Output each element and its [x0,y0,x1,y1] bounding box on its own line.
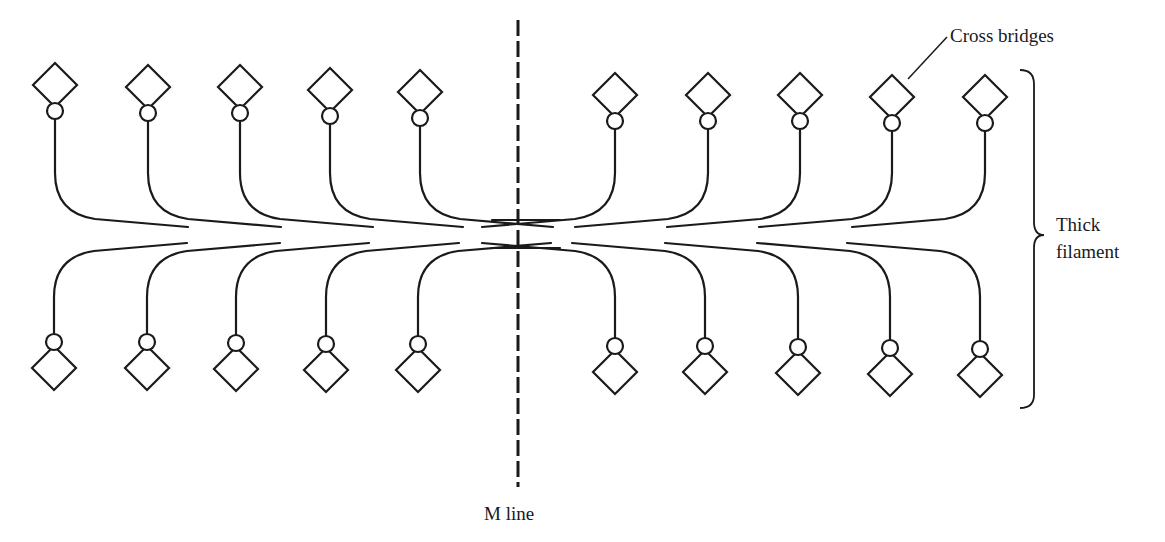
cross-bridges-label: Cross bridges [950,24,1054,48]
myosin-tail [55,119,188,227]
hinge-circle-icon [972,341,988,357]
myosin-tail [418,243,551,336]
hinge-circle-icon [697,338,713,354]
cross-bridge-head-icon [870,75,914,119]
cross-bridge-head-icon [776,351,820,395]
hinge-circle-icon [607,338,623,354]
cross-bridge-head-icon [304,348,348,392]
cross-bridge-head-icon [32,346,76,390]
myosin-tail [420,126,553,227]
myosin-molecule [482,243,637,394]
myosin-molecule [482,73,637,227]
cross-bridge-head-icon [683,350,727,394]
hinge-circle-icon [47,103,63,119]
hinge-circle-icon [607,113,623,129]
thick-filament-label-line2: filament [1056,240,1119,264]
thick-filament-label-line1: Thick [1056,213,1100,237]
cross-bridge-head-icon [33,63,77,107]
hinge-circle-icon [232,105,248,121]
hinge-circle-icon [46,334,62,350]
hinge-circle-icon [139,334,155,350]
m-line-label: M line [484,502,534,526]
cross-bridge-head-icon [126,65,170,109]
hinge-circle-icon [700,113,716,129]
hinge-circle-icon [228,335,244,351]
cross-bridge-head-icon [593,73,637,117]
hinge-circle-icon [412,110,428,126]
cross-bridges-leader-line [908,37,947,79]
hinge-circle-icon [410,336,426,352]
hinge-circle-icon [977,115,993,131]
cross-bridge-head-icon [308,68,352,112]
cross-bridge-head-icon [593,350,637,394]
myosin-tail [240,121,373,227]
cross-bridge-head-icon [958,353,1002,397]
cross-bridge-head-icon [778,73,822,117]
thick-filament-brace [1020,70,1044,408]
hinge-circle-icon [882,340,898,356]
thick-filament-diagram [0,0,1165,542]
myosin-tail [147,243,280,334]
myosin-molecule [398,70,553,227]
cross-bridge-head-icon [398,70,442,114]
hinge-circle-icon [140,105,156,121]
cross-bridge-head-icon [218,65,262,109]
myosin-tail [847,243,980,341]
myosin-tail [482,129,615,227]
cross-bridge-head-icon [396,348,440,392]
hinge-circle-icon [790,339,806,355]
cross-bridge-head-icon [963,75,1007,119]
hinge-circle-icon [322,108,338,124]
curly-brace-icon [1020,70,1044,408]
hinge-circle-icon [318,336,334,352]
myosin-tail [148,121,281,227]
myosin-tail [330,124,463,227]
cross-bridge-head-icon [868,352,912,396]
myosin-tail [572,243,705,338]
hinge-circle-icon [792,113,808,129]
myosin-molecule [396,243,551,392]
cross-bridge-head-icon [686,73,730,117]
cross-bridge-head-icon [214,347,258,391]
myosin-tail [482,243,615,338]
cross-bridge-head-icon [125,346,169,390]
hinge-circle-icon [884,115,900,131]
